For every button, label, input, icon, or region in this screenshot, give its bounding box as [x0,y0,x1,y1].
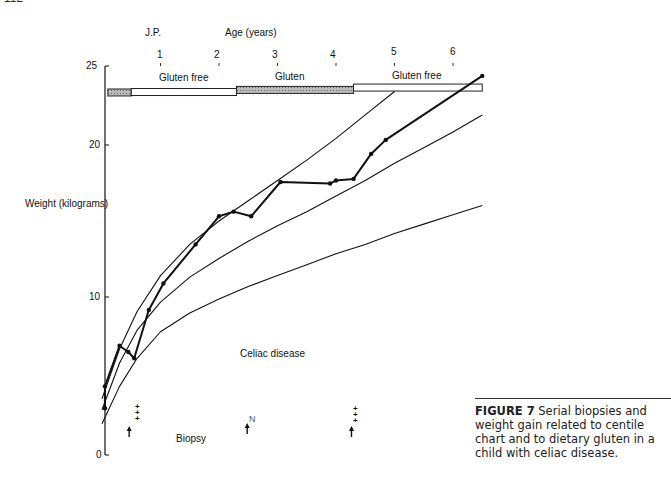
y-tick-20: 20 [89,139,100,150]
diet-bar [108,84,482,96]
x-axis-label: Age (years) [225,27,277,38]
diet-label-gluten-free-1: Gluten free [159,72,208,83]
x-tick-4: 4 [330,49,336,60]
centile-line [102,115,482,410]
data-point [249,214,253,218]
x-tick-1: 1 [157,49,163,60]
data-series [102,74,484,424]
biopsy-grade-1: + + + [135,404,140,422]
data-point [278,180,282,184]
biopsy-arrows [127,423,354,437]
y-tick-10: 10 [89,291,100,302]
x-tick-2: 2 [214,49,220,60]
data-point [193,242,197,246]
x-tick-5: 5 [391,46,397,57]
diet-label-gluten: Gluten [275,71,304,82]
patient-id: J.P. [145,27,161,38]
figure-label: FIGURE 7 [475,404,535,418]
diet-segment-gluten [108,89,131,96]
x-tick-6: 6 [450,46,456,57]
data-point [369,152,373,156]
data-point [217,214,221,218]
diet-segment-gluten [237,86,354,93]
centile-line [102,205,482,423]
y-tick-0: 0 [96,449,102,460]
data-point [334,178,338,182]
data-point [384,138,388,142]
figure-caption: FIGURE 7 Serial biopsies and weight gain… [475,404,671,460]
y-tick-25: 25 [86,60,97,71]
x-axis-ticks [161,63,454,66]
data-point [147,308,151,312]
arrowhead-icon [349,426,354,431]
data-point [351,177,355,181]
diet-label-gluten-free-2: Gluten free [392,70,441,81]
page-number: 112 [4,0,23,5]
data-point [328,181,332,185]
caption-divider [475,398,671,399]
biopsy-grade-2: N [249,414,256,424]
arrowhead-icon [127,426,132,431]
annotation-celiac-disease: Celiac disease [240,348,305,359]
diet-segment-gluten-free [131,89,236,96]
x-tick-3: 3 [272,49,278,60]
data-point [161,281,165,285]
biopsy-label: Biopsy [176,433,206,444]
data-point [480,74,484,78]
biopsy-grade-3: + + + [353,406,358,424]
y-axis-label: Weight (kilograms) [25,198,108,209]
